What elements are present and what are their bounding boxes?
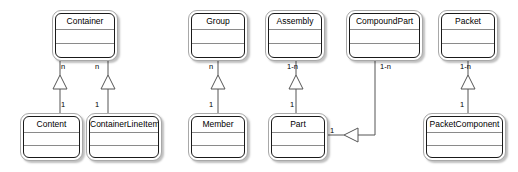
attributes-compartment <box>192 30 244 44</box>
attributes-compartment <box>427 133 502 146</box>
class-box-group[interactable]: Group <box>188 10 248 61</box>
multiplicity-label-container-content-source: n <box>61 62 65 71</box>
operations-compartment <box>90 146 158 158</box>
box-inner-frame: Part <box>271 116 325 158</box>
multiplicity-label-containerlineitem-target: 1 <box>95 100 99 109</box>
class-box-packetcomponent[interactable]: PacketComponent <box>423 113 506 161</box>
class-name-container: Container <box>56 14 114 30</box>
connector-compoundpart-part <box>328 61 375 142</box>
attributes-compartment <box>269 30 321 44</box>
operations-compartment <box>192 44 244 57</box>
box-inner-frame: ContainerLineItem <box>89 116 159 158</box>
box-inner-frame: Content <box>23 116 80 158</box>
class-name-compoundpart: CompoundPart <box>350 14 419 30</box>
operations-compartment <box>350 44 419 57</box>
class-name-member: Member <box>192 117 244 133</box>
attributes-compartment <box>24 133 79 146</box>
class-name-content: Content <box>24 117 79 133</box>
attributes-compartment <box>90 133 158 146</box>
multiplicity-label-part-right-source: 1 <box>330 126 334 135</box>
attributes-compartment <box>192 133 244 146</box>
box-inner-frame: Member <box>191 116 245 158</box>
class-name-containerlineitem: ContainerLineItem <box>90 117 158 133</box>
multiplicity-label-part-target: 1 <box>290 100 294 109</box>
class-box-assembly[interactable]: Assembly <box>265 10 325 61</box>
class-name-packetcomponent: PacketComponent <box>427 117 502 133</box>
attributes-compartment <box>350 30 419 44</box>
operations-compartment <box>24 146 79 158</box>
box-inner-frame: Container <box>55 13 115 58</box>
multiplicity-label-packetcomponent-target: 1 <box>460 100 464 109</box>
class-box-compoundpart[interactable]: CompoundPart <box>346 10 423 61</box>
connector-container-containerlineitem <box>101 61 115 113</box>
class-name-assembly: Assembly <box>269 14 321 30</box>
attributes-compartment <box>442 30 494 44</box>
multiplicity-label-packet-source: 1-n <box>460 62 471 71</box>
box-inner-frame: Packet <box>441 13 495 58</box>
class-name-part: Part <box>272 117 324 133</box>
class-box-containerlineitem[interactable]: ContainerLineItem <box>86 113 162 161</box>
box-inner-frame: Assembly <box>268 13 322 58</box>
class-box-container[interactable]: Container <box>52 10 118 61</box>
multiplicity-label-member-target: 1 <box>209 100 213 109</box>
class-name-packet: Packet <box>442 14 494 30</box>
operations-compartment <box>56 44 114 57</box>
attributes-compartment <box>272 133 324 146</box>
class-box-member[interactable]: Member <box>188 113 248 161</box>
box-inner-frame: Group <box>191 13 245 58</box>
uml-class-diagram: Container Content ContainerLineItem Grou… <box>0 0 518 172</box>
operations-compartment <box>269 44 321 57</box>
multiplicity-label-compoundpart-source: 1-n <box>380 62 391 71</box>
multiplicity-label-group-source: n <box>209 62 213 71</box>
box-inner-frame: PacketComponent <box>426 116 503 158</box>
operations-compartment <box>192 146 244 158</box>
multiplicity-label-content-target: 1 <box>61 100 65 109</box>
multiplicity-label-container-containerlineitem-source: n <box>95 62 99 71</box>
attributes-compartment <box>56 30 114 44</box>
box-inner-frame: CompoundPart <box>349 13 420 58</box>
operations-compartment <box>427 146 502 158</box>
class-box-content[interactable]: Content <box>20 113 83 161</box>
multiplicity-label-assembly-source: 1-n <box>287 62 298 71</box>
operations-compartment <box>442 44 494 57</box>
class-box-packet[interactable]: Packet <box>438 10 498 61</box>
operations-compartment <box>272 146 324 158</box>
class-name-group: Group <box>192 14 244 30</box>
class-box-part[interactable]: Part <box>268 113 328 161</box>
